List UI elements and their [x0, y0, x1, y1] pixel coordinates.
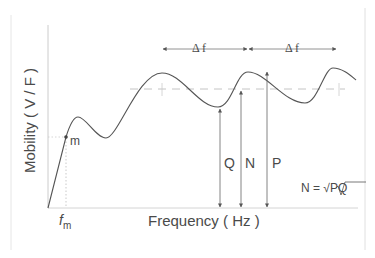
n-label: N [245, 155, 255, 171]
p-label: P [272, 155, 281, 171]
delta-f-label-2: Δ f [285, 41, 299, 56]
mass-point-marker [64, 135, 68, 139]
q-label: Q [224, 155, 235, 171]
y-axis-label: Mobility ( V / F ) [21, 66, 38, 176]
geometric-mean-formula: N = √PQ [301, 181, 347, 195]
delta-f-label-1: Δ f [192, 41, 206, 56]
x-axis-label: Frequency ( Hz ) [148, 212, 260, 229]
mass-point-label: m [70, 134, 80, 148]
mass-frequency-label: fm [59, 212, 71, 231]
fm-subscript: m [63, 220, 71, 231]
